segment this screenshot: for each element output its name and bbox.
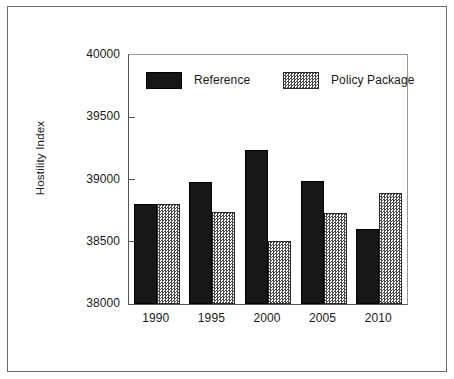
x-tick-label-1995: 1995 [198,311,225,325]
legend-label-policy-package: Policy Package [331,73,414,87]
bar-reference-2000 [245,150,268,304]
bar-policy-package-2000 [268,241,291,304]
bar-reference-2010 [356,229,379,304]
y-tick-mark [129,179,135,180]
bar-reference-2005 [301,181,324,304]
y-tick-label: 38500 [86,234,120,248]
chart-figure: Hostility Index 380003850039000395004000… [0,0,454,379]
x-tick-label-1990: 1990 [142,311,169,325]
bar-policy-package-2010 [379,193,402,304]
legend-swatch-policy-package-icon [283,72,319,89]
bar-policy-package-1990 [157,204,180,304]
bar-reference-1990 [134,204,157,304]
legend-swatch-reference-icon [146,72,182,89]
y-tick-label: 40000 [86,47,120,61]
bar-policy-package-1995 [212,212,235,304]
x-tick-label-2010: 2010 [365,311,392,325]
legend-label-reference: Reference [194,73,250,87]
y-axis-label: Hostility Index [34,98,46,218]
y-tick-mark [129,117,135,118]
y-tick-label: 39000 [86,172,120,186]
x-axis: 19901995200020052010 [128,306,408,332]
legend-entry-policy-package: Policy Package [283,70,414,90]
legend-entry-reference: Reference [146,70,250,90]
x-tick-label-2005: 2005 [309,311,336,325]
chart-legend: Reference Policy Package [128,70,408,96]
y-tick-label: 38000 [86,296,120,310]
y-tick-label: 39500 [86,109,120,123]
bar-policy-package-2005 [324,213,347,305]
x-tick-label-2000: 2000 [253,311,280,325]
bar-reference-1995 [189,182,212,304]
